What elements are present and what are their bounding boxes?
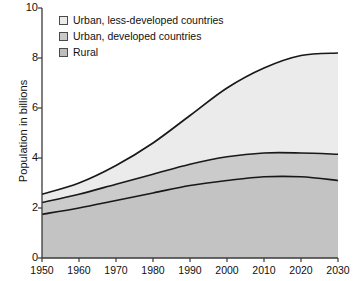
legend-swatch-icon	[59, 16, 68, 25]
x-tick-label: 1980	[133, 265, 173, 276]
legend-item: Urban, less-developed countries	[59, 13, 224, 27]
legend-label: Urban, less-developed countries	[73, 15, 224, 26]
legend-label: Rural	[73, 47, 98, 58]
legend-swatch-icon	[59, 32, 68, 41]
x-tick-label: 1950	[22, 265, 62, 276]
x-tick-label: 2000	[207, 265, 247, 276]
legend-swatch-icon	[59, 48, 68, 57]
x-tick-label: 1990	[170, 265, 210, 276]
legend-item: Urban, developed countries	[59, 29, 224, 43]
x-tick-label: 2010	[244, 265, 284, 276]
population-area-chart: Population in billions 0246810 195019601…	[0, 0, 354, 281]
x-tick-label: 2030	[318, 265, 354, 276]
legend-item: Rural	[59, 45, 224, 59]
legend-label: Urban, developed countries	[73, 31, 201, 42]
x-tick-label: 1960	[59, 265, 99, 276]
x-tick-label: 2020	[281, 265, 321, 276]
x-tick-label: 1970	[96, 265, 136, 276]
chart-legend: Urban, less-developed countriesUrban, de…	[59, 13, 224, 59]
